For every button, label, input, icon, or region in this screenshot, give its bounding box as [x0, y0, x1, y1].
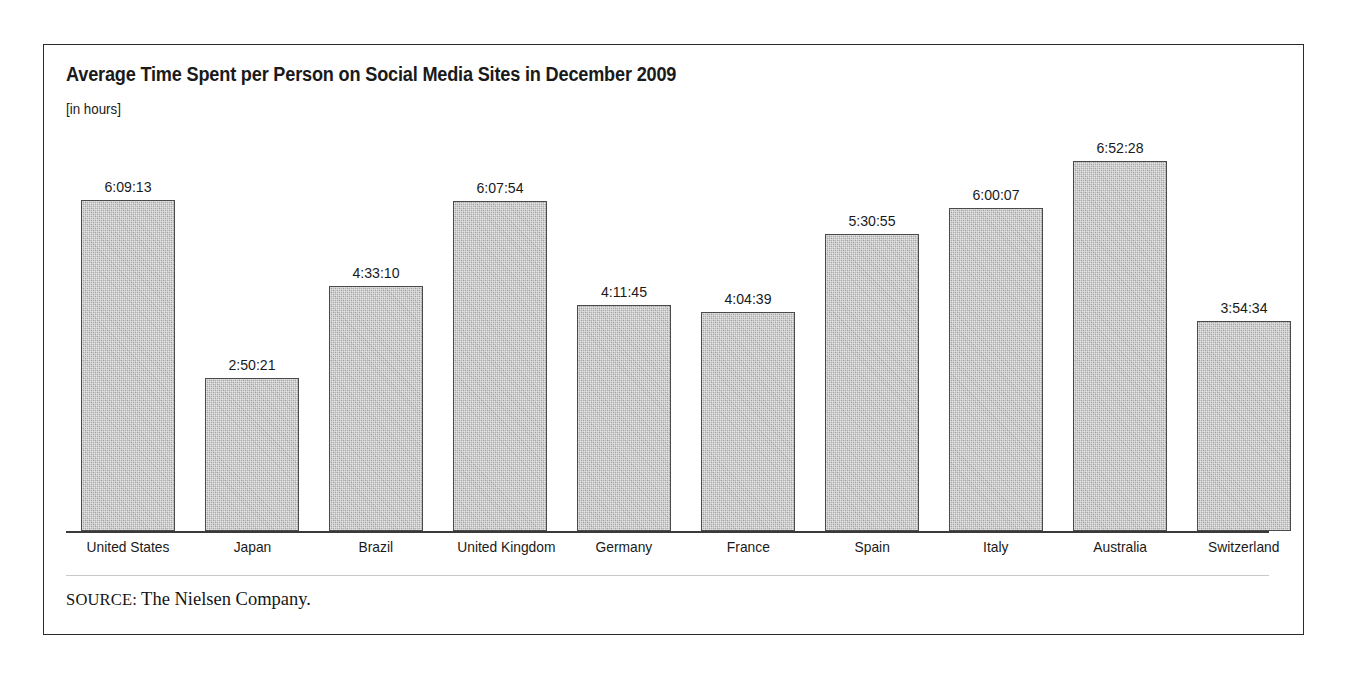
category-label-text: Brazil — [359, 538, 394, 555]
source-divider — [66, 575, 1269, 576]
category-label: Brazil — [329, 538, 423, 555]
bar-value-label: 6:52:28 — [1096, 139, 1143, 156]
bar-spain: 5:30:55 — [825, 234, 919, 531]
category-label: Australia — [1073, 538, 1167, 555]
bar-value-label: 6:07:54 — [476, 179, 523, 196]
category-label: United States — [81, 538, 175, 555]
bar-value-label: 4:11:45 — [601, 283, 647, 300]
bar-rect — [577, 305, 671, 531]
category-label-text: France — [727, 538, 770, 555]
bar-rect — [453, 201, 547, 531]
bar-rect — [701, 312, 795, 531]
category-label-text: Italy — [983, 538, 1008, 555]
bar-value-label: 4:33:10 — [352, 264, 399, 281]
bar-france: 4:04:39 — [701, 312, 795, 531]
source-text: The Nielsen Company. — [141, 589, 311, 609]
bar-rect — [1073, 161, 1167, 531]
plot-area: 6:09:132:50:214:33:106:07:544:11:454:04:… — [66, 141, 1287, 531]
bar-value-label: 6:00:07 — [972, 186, 1019, 203]
category-label-text: Germany — [596, 538, 653, 555]
category-label: France — [701, 538, 795, 555]
category-label-text: Australia — [1093, 538, 1147, 555]
chart-subtitle-units: [in hours] — [66, 101, 121, 117]
category-label-text: United States — [87, 538, 170, 555]
category-label-text: Spain — [854, 538, 889, 555]
bar-value-label: 6:09:13 — [104, 178, 151, 195]
category-label: Japan — [205, 538, 299, 555]
bar-rect — [949, 208, 1043, 531]
bar-rect — [329, 286, 423, 531]
category-label: Switzerland — [1197, 538, 1291, 555]
bar-australia: 6:52:28 — [1073, 161, 1167, 531]
category-label: Germany — [577, 538, 671, 555]
bar-united-states: 6:09:13 — [81, 200, 175, 531]
bar-value-label: 4:04:39 — [724, 290, 771, 307]
figure-frame: Average Time Spent per Person on Social … — [43, 44, 1304, 635]
source-note: SOURCE:The Nielsen Company. — [66, 589, 311, 610]
bar-rect — [81, 200, 175, 531]
bar-germany: 4:11:45 — [577, 305, 671, 531]
bar-rect — [1197, 321, 1291, 531]
category-label-text: Switzerland — [1208, 538, 1279, 555]
bar-italy: 6:00:07 — [949, 208, 1043, 531]
bar-rect — [205, 378, 299, 531]
bar-rect — [825, 234, 919, 531]
bar-united-kingdom: 6:07:54 — [453, 201, 547, 531]
bar-switzerland: 3:54:34 — [1197, 321, 1291, 531]
bar-brazil: 4:33:10 — [329, 286, 423, 531]
bar-value-label: 5:30:55 — [848, 212, 895, 229]
bar-japan: 2:50:21 — [205, 378, 299, 531]
x-axis-line — [66, 531, 1269, 533]
bar-value-label: 3:54:34 — [1220, 299, 1267, 316]
bar-value-label: 2:50:21 — [228, 356, 275, 373]
x-axis-category-labels: United StatesJapanBrazilUnited KingdomGe… — [66, 538, 1269, 568]
category-label-text: United Kingdom — [457, 538, 555, 555]
source-label: SOURCE: — [66, 590, 137, 609]
category-label-text: Japan — [233, 538, 271, 555]
page-title: Average Time Spent per Person on Social … — [66, 63, 676, 86]
category-label: United Kingdom — [453, 538, 547, 555]
category-label: Italy — [949, 538, 1043, 555]
category-label: Spain — [825, 538, 919, 555]
